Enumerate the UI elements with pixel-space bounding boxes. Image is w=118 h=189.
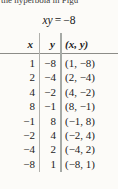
y-value: −2 bbox=[39, 85, 60, 99]
table-row: 1−8(1, −8) bbox=[0, 56, 118, 70]
table-row: 2−4(2, −4) bbox=[0, 70, 118, 84]
y-value: −1 bbox=[39, 99, 60, 113]
y-value: 4 bbox=[39, 128, 60, 142]
x-value: −2 bbox=[0, 128, 39, 142]
x-value: 2 bbox=[0, 70, 39, 84]
header-x: x bbox=[0, 38, 39, 52]
textbook-page-crop: the hyperbola in Figu xy=−8 x y (x, y) 1… bbox=[0, 0, 118, 189]
x-value: 8 bbox=[0, 99, 39, 113]
table-row: −24(−2, 4) bbox=[0, 128, 118, 142]
xy-pair-value: (2, −4) bbox=[60, 70, 118, 84]
xy-pair-value: (−1, 8) bbox=[60, 114, 118, 128]
y-value: 8 bbox=[39, 114, 60, 128]
equation-lhs: xy bbox=[43, 14, 53, 26]
x-value: −4 bbox=[0, 142, 39, 156]
header-xy-pair: (x, y) bbox=[60, 38, 118, 52]
header-underline bbox=[0, 53, 118, 54]
table-row: −42(−4, 2) bbox=[0, 142, 118, 156]
x-value: 4 bbox=[0, 85, 39, 99]
table-body: 1−8(1, −8)2−4(2, −4)4−2(4, −2)8−1(8, −1)… bbox=[0, 56, 118, 171]
y-value: −8 bbox=[39, 56, 60, 70]
table-row: 4−2(4, −2) bbox=[0, 85, 118, 99]
values-table: x y (x, y) 1−8(1, −8)2−4(2, −4)4−2(4, −2… bbox=[0, 33, 118, 178]
y-value: 2 bbox=[39, 142, 60, 156]
x-value: −1 bbox=[0, 114, 39, 128]
y-value: −4 bbox=[39, 70, 60, 84]
clipped-paragraph-text: the hyperbola in Figu bbox=[1, 0, 78, 5]
table-row: −18(−1, 8) bbox=[0, 114, 118, 128]
table-header-row: x y (x, y) bbox=[0, 33, 118, 52]
y-value: 1 bbox=[39, 157, 60, 171]
equation: xy=−8 bbox=[0, 13, 118, 27]
xy-pair-value: (−2, 4) bbox=[60, 128, 118, 142]
equation-rhs: −8 bbox=[63, 14, 75, 26]
table-row: 8−1(8, −1) bbox=[0, 99, 118, 113]
xy-pair-value: (−8, 1) bbox=[60, 157, 118, 171]
x-value: −8 bbox=[0, 157, 39, 171]
equation-equals: = bbox=[55, 14, 62, 26]
xy-pair-value: (−4, 2) bbox=[60, 142, 118, 156]
header-y: y bbox=[39, 38, 60, 52]
x-value: 1 bbox=[0, 56, 39, 70]
table-row: −81(−8, 1) bbox=[0, 157, 118, 171]
xy-pair-value: (1, −8) bbox=[60, 56, 118, 70]
xy-pair-value: (4, −2) bbox=[60, 85, 118, 99]
xy-pair-value: (8, −1) bbox=[60, 99, 118, 113]
